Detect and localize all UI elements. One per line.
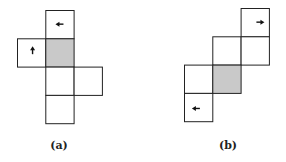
net-cell <box>241 9 269 37</box>
net-cell <box>46 95 74 123</box>
figure-a-label: (a) <box>50 139 68 152</box>
shaded-cell <box>46 39 74 67</box>
figure-b <box>185 9 270 122</box>
shaded-cell <box>213 65 241 93</box>
net-cell <box>185 93 213 121</box>
net-cell <box>46 67 74 95</box>
figure-a <box>18 11 103 124</box>
net-cell <box>241 37 269 65</box>
figure-b-label: (b) <box>219 139 237 152</box>
net-cell <box>18 39 46 67</box>
net-cell <box>185 65 213 93</box>
net-cell <box>213 37 241 65</box>
net-cell <box>74 67 102 95</box>
cube-net-diagram: (a) (b) <box>0 0 286 162</box>
